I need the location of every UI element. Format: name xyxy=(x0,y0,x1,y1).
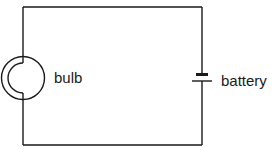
circuit-wire xyxy=(23,7,202,145)
bulb-label: bulb xyxy=(54,69,82,86)
bulb-icon xyxy=(2,57,45,100)
battery-icon xyxy=(192,75,212,82)
circuit-diagram: bulb battery xyxy=(0,0,274,147)
battery-label: battery xyxy=(221,72,267,89)
